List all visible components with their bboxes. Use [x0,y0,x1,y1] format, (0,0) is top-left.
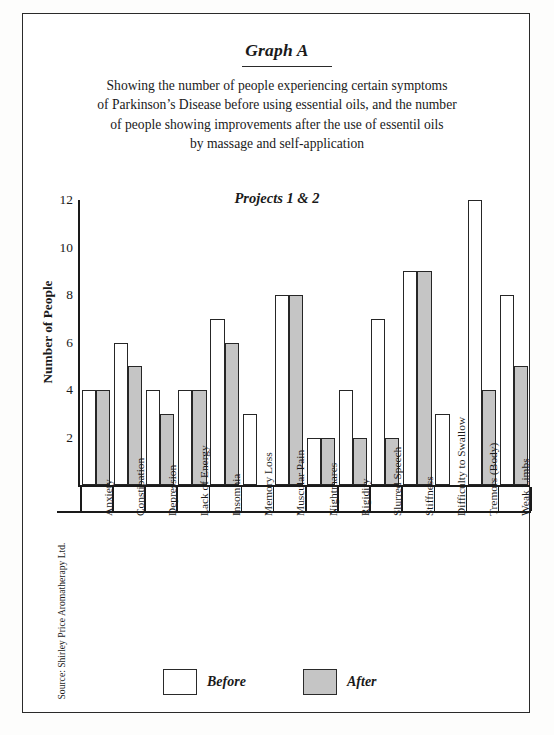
bar-group [241,200,273,485]
bar-before [371,319,385,485]
x-axis-label-insomnia: Insomnia [231,474,242,516]
y-axis-tick-2: 2 [47,431,73,444]
bar-group [401,200,433,485]
x-axis-label-slurred-speech: Slurred Speech [392,447,403,516]
bar-before [500,295,514,485]
bar-before [146,390,160,485]
y-axis-tick-12: 12 [47,193,73,206]
y-axis-tick-6: 6 [47,336,73,349]
bar-before [403,271,417,485]
y-axis-tick-8: 8 [47,288,73,301]
bar-group [498,200,530,485]
x-axis-label-nightmares: Nightmares [328,463,339,516]
bar-before [468,200,482,485]
y-axis-tick-4: 4 [47,383,73,396]
x-axis-label-tremors-body: Tremors (Body) [488,443,499,516]
page-canvas: Graph A Showing the number of people exp… [0,0,554,735]
bar-before [243,414,257,485]
bar-group [209,200,241,485]
x-axis-label-stiffness: Stiffness [424,476,435,516]
y-axis-tick-10: 10 [47,241,73,254]
legend-swatch-after [303,669,337,695]
x-axis-label-depression: Depression [167,465,178,516]
bar-group [176,200,208,485]
bar-before [114,343,128,486]
bar-group [144,200,176,485]
x-axis-label-muscular-pain: Muscular Pain [295,450,306,516]
bar-group [305,200,337,485]
bar-group [273,200,305,485]
legend-label-after: After [347,674,377,690]
x-axis-label-weak-limbs: Weak Limbs [520,458,531,516]
x-axis-tick [80,487,82,511]
bar-before [435,414,449,485]
bar-after [225,343,239,486]
bar-before [82,390,96,485]
x-axis-label-memory-loss: Memory Loss [263,452,274,516]
bar-before [210,319,224,485]
bar-before [307,438,321,486]
bar-before [275,295,289,485]
bar-group [112,200,144,485]
printed-frame: Graph A Showing the number of people exp… [22,13,530,713]
x-axis-label-rigidity: Rigidity [360,479,371,516]
bar-after [417,271,431,485]
x-axis-label-lack-of-energy: Lack of Energy [199,445,210,516]
legend-label-before: Before [207,674,246,690]
bar-before [339,390,353,485]
bar-after [96,390,110,485]
x-axis-label-anxiety: Anxiety [103,479,114,516]
bar-group [80,200,112,485]
legend-swatch-before [163,669,197,695]
x-axis-label-difficulty-to-swallow: Difficulty to Swallow [456,417,467,516]
bar-chart: Number of People 24681012 AnxietyConstip… [23,14,531,714]
bar-group [369,200,401,485]
bar-before [178,390,192,485]
bar-group [337,200,369,485]
x-axis-label-constipation: Constipation [135,458,146,516]
